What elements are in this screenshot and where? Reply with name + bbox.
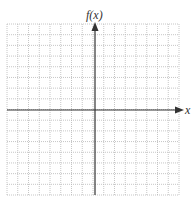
y-axis (92, 22, 99, 195)
y-axis-arrow-icon (92, 22, 99, 31)
x-axis-label: x (184, 103, 191, 117)
y-axis-label: f(x) (86, 8, 103, 22)
coordinate-grid: f(x) x (0, 0, 196, 198)
x-axis-arrow-icon (175, 107, 184, 114)
